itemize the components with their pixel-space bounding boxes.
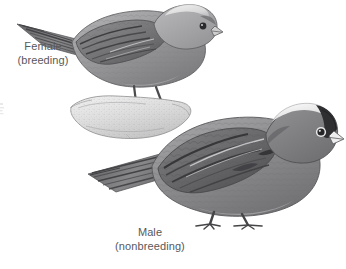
label-female-line2: (breeding) bbox=[6, 54, 80, 68]
illustration-plate: Female (breeding) Male (nonbreeding) bbox=[0, 0, 346, 269]
label-male: Male (nonbreeding) bbox=[98, 226, 202, 253]
female-eye bbox=[200, 23, 207, 30]
male-eye bbox=[316, 127, 326, 137]
male-finch-illustration bbox=[86, 92, 344, 232]
cropped-edge-mark-icon bbox=[0, 102, 10, 120]
label-male-line1: Male bbox=[98, 226, 202, 240]
male-head bbox=[266, 103, 338, 163]
label-female: Female (breeding) bbox=[6, 40, 80, 67]
label-male-line2: (nonbreeding) bbox=[98, 240, 202, 254]
label-female-line1: Female bbox=[6, 40, 80, 54]
